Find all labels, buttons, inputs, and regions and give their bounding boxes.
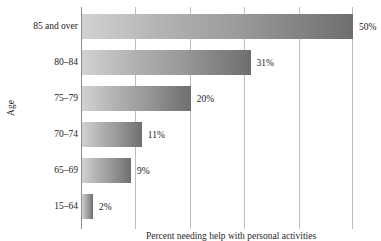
y-axis-tick-label: 70–74 [2, 129, 78, 139]
bar-value-label: 2% [93, 202, 112, 212]
bar-value-label: 11% [142, 130, 165, 140]
bar [82, 86, 191, 111]
bar-row: 50% [81, 14, 353, 39]
bar-row: 11% [81, 122, 353, 147]
bar-row: 9% [81, 158, 353, 183]
y-axis-tick-label: 80–84 [2, 57, 78, 67]
bar [82, 14, 353, 39]
bar-value-label: 31% [251, 58, 274, 68]
bar-value-label: 9% [131, 166, 150, 176]
bar [82, 50, 251, 75]
bar-value-label: 50% [353, 22, 376, 32]
bar [82, 122, 142, 147]
bar-value-label: 20% [191, 94, 214, 104]
y-axis-tick-label: 85 and over [2, 21, 78, 31]
bar-row: 20% [81, 86, 353, 111]
bar-row: 2% [81, 194, 353, 219]
y-axis-tick-label: 15–64 [2, 201, 78, 211]
plot-area: 50% 31% 20% 11% 9% 2% [81, 7, 353, 229]
bar-row: 31% [81, 50, 353, 75]
bar [82, 194, 93, 219]
y-axis-tick-labels: 85 and over 80–84 75–79 70–74 65–69 15–6… [0, 7, 78, 229]
x-axis-title: Percent needing help with personal activ… [81, 231, 381, 241]
y-axis-tick-label: 65–69 [2, 165, 78, 175]
y-axis-tick-label: 75–79 [2, 93, 78, 103]
bar [82, 158, 131, 183]
